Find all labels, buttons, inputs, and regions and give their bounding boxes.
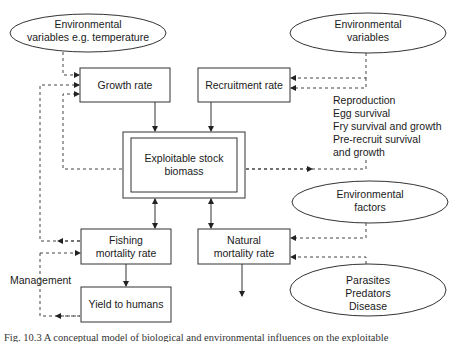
stock-biomass-node: Exploitable stock biomass xyxy=(123,132,245,198)
note-egg-survival: Egg survival xyxy=(333,107,390,119)
figure-caption: Fig. 10.3 A conceptual model of biologic… xyxy=(4,332,389,342)
env-temp-line2: variables e.g. temperature xyxy=(27,31,149,43)
recruitment-rate-node: Recruitment rate xyxy=(198,68,290,102)
growth-rate-node: Growth rate xyxy=(80,68,170,102)
note-and-growth: and growth xyxy=(333,146,385,158)
note-reproduction: Reproduction xyxy=(333,94,396,106)
biotic-line1: Parasites xyxy=(346,274,390,286)
yield-node: Yield to humans xyxy=(81,287,171,322)
fishing-line2: mortality rate xyxy=(96,247,157,259)
natural-mortality-node: Natural mortality rate xyxy=(198,229,290,264)
yield-label: Yield to humans xyxy=(89,298,164,310)
env-variables-node: Environmental variables xyxy=(290,13,446,53)
env-factors-line2: factors xyxy=(354,201,386,213)
stock-line1: Exploitable stock xyxy=(145,152,225,164)
natural-line1: Natural xyxy=(227,234,261,246)
fish-stock-diagram: Environmental variables e.g. temperature… xyxy=(0,0,458,342)
env-temp-line1: Environmental xyxy=(54,18,121,30)
biotic-factors-node: Parasites Predators Disease xyxy=(290,264,446,316)
biotic-line3: Disease xyxy=(349,300,387,312)
env-temperature-node: Environmental variables e.g. temperature xyxy=(10,14,166,52)
management-label: Management xyxy=(10,274,71,286)
env-vars-line2: variables xyxy=(347,31,389,43)
natural-line2: mortality rate xyxy=(214,247,275,259)
growth-rate-label: Growth rate xyxy=(98,79,153,91)
fishing-mortality-node: Fishing mortality rate xyxy=(81,229,171,264)
fishing-line1: Fishing xyxy=(109,234,143,246)
env-factors-node: Environmental factors xyxy=(292,181,448,223)
env-vars-line1: Environmental xyxy=(334,18,401,30)
env-factors-line1: Environmental xyxy=(336,188,403,200)
recruitment-notes: Reproduction Egg survival Fry survival a… xyxy=(333,94,442,158)
stock-line2: biomass xyxy=(164,165,203,177)
note-fry-survival: Fry survival and growth xyxy=(333,120,442,132)
biotic-line2: Predators xyxy=(345,287,391,299)
note-pre-recruit: Pre-recruit survival xyxy=(333,133,421,145)
solid-arrows xyxy=(126,102,242,296)
recruitment-rate-label: Recruitment rate xyxy=(205,79,283,91)
